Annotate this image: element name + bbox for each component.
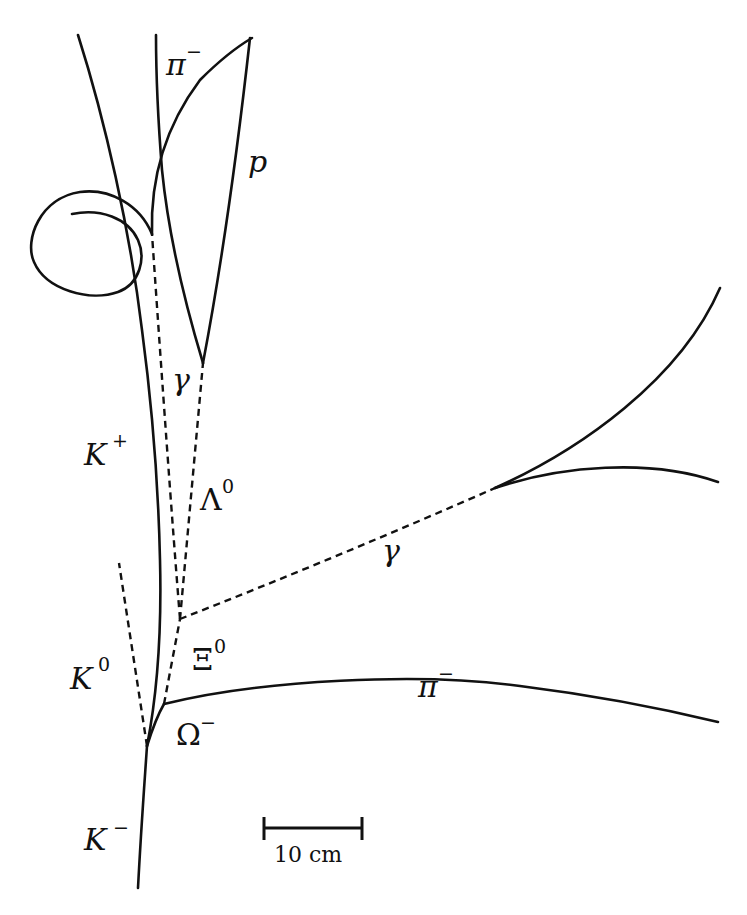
scale-bar-label: 10 cm [274,842,342,867]
label-gamma-upper: γ [172,362,190,397]
xi0-track [164,619,180,704]
svg-text:π: π [165,47,187,82]
svg-text:0: 0 [98,653,110,675]
label-pi-minus-top: π − [165,40,202,82]
svg-text:π: π [417,669,439,704]
label-k-plus: K + [83,429,128,472]
svg-text:0: 0 [222,475,234,497]
k0-track [119,563,147,746]
label-gamma-right: γ [382,533,400,568]
scale-bar: 10 cm [264,817,362,867]
gamma-upper-track [152,234,180,619]
label-k0: K 0 [69,653,110,696]
svg-text:−: − [113,816,129,838]
svg-text:0: 0 [214,635,226,657]
electron-spiral-track [31,191,152,295]
svg-text:K: K [83,437,108,472]
svg-text:Ξ: Ξ [192,642,213,677]
svg-text:K: K [83,822,108,857]
label-proton: p [248,144,267,179]
svg-text:−: − [186,40,202,62]
proton-track [203,38,250,363]
pi-minus-bottom-track [164,679,718,722]
svg-text:Λ: Λ [199,482,222,517]
label-k-minus: K − [83,816,129,857]
svg-text:p: p [248,144,267,179]
svg-text:−: − [438,662,454,684]
pair-track-upper [495,288,720,488]
svg-text:Ω: Ω [176,717,201,752]
label-pi-minus-bottom: π − [417,662,454,704]
bubble-chamber-diagram: π − p γ K + Λ 0 γ Ξ 0 K 0 π − Ω − K − 1 [0,0,747,915]
k-plus-track [78,35,160,746]
svg-text:γ: γ [382,533,400,568]
label-xi0: Ξ 0 [192,635,226,677]
svg-text:−: − [200,711,216,733]
label-lambda0: Λ 0 [199,475,234,517]
gamma-right-track [180,488,495,619]
svg-text:γ: γ [172,362,190,397]
label-omega-minus: Ω − [176,711,216,752]
k-minus-track [138,746,147,888]
svg-text:+: + [112,429,128,451]
svg-text:K: K [69,661,94,696]
